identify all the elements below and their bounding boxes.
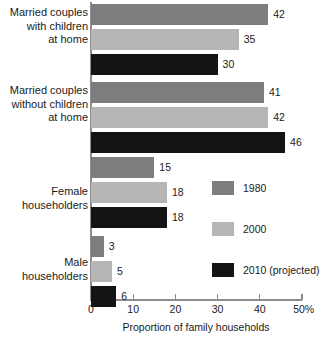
x-tick-label-50: 50% [293,303,314,315]
x-tick-label-20: 20 [170,303,182,315]
bar-male-householders-2010-projected[interactable] [91,286,116,307]
category-label-female-householders: Female householders [0,185,88,212]
bar-value-married-with-children-2010-projected: 30 [223,58,235,70]
category-label-male-householders: Male householders [0,256,88,283]
x-tick-label-10: 10 [127,303,139,315]
category-label-married-with-children: Married couples with children at home [0,6,88,47]
bar-value-female-householders-2000: 18 [172,186,184,198]
category-label-married-without-children: Married couples without children at home [0,84,88,125]
bar-male-householders-1980[interactable] [91,236,104,257]
legend-item-2000[interactable]: 2000 [212,221,266,236]
bar-value-married-without-children-1980: 41 [269,86,281,98]
bar-married-with-children-1980[interactable] [91,4,268,25]
legend-swatch-icon-1980 [212,181,234,195]
legend-label-2000: 2000 [243,223,266,235]
bar-value-male-householders-2010-projected: 6 [121,290,127,302]
bar-value-married-with-children-2000: 35 [244,33,256,45]
bar-chart: 01020304050% Married couples with childr… [0,0,322,342]
x-tick-30 [217,294,218,300]
bar-value-male-householders-2000: 5 [117,265,123,277]
x-tick-10 [133,294,134,300]
x-axis-title: Proportion of family households [90,321,302,333]
x-tick-40 [259,294,260,300]
bar-female-householders-2010-projected[interactable] [91,207,167,228]
plot-area: 01020304050% Married couples with childr… [0,0,322,342]
legend-swatch-icon-2010 [212,263,234,277]
bar-value-female-householders-1980: 15 [159,161,171,173]
legend-item-1980[interactable]: 1980 [212,180,266,195]
legend-label-2010: 2010 (projected) [243,264,319,276]
bar-female-householders-2000[interactable] [91,182,167,203]
bar-value-married-without-children-2000: 42 [273,111,285,123]
bar-married-with-children-2000[interactable] [91,29,239,50]
x-tick-label-30: 30 [212,303,224,315]
bar-male-householders-2000[interactable] [91,261,112,282]
bar-married-without-children-2000[interactable] [91,107,268,128]
legend-swatch-icon-2000 [212,222,234,236]
bar-value-male-householders-1980: 3 [109,240,115,252]
bar-female-householders-1980[interactable] [91,157,154,178]
legend-item-2010-projected[interactable]: 2010 (projected) [212,262,319,277]
bar-value-married-with-children-1980: 42 [273,8,285,20]
x-tick-label-40: 40 [254,303,266,315]
legend-label-1980: 1980 [243,182,266,194]
x-tick-20 [175,294,176,300]
bar-married-without-children-1980[interactable] [91,82,264,103]
bar-value-married-without-children-2010-projected: 46 [290,136,302,148]
bar-value-female-householders-2010-projected: 18 [172,211,184,223]
bar-married-without-children-2010-projected[interactable] [91,132,285,153]
x-tick-50 [301,294,302,300]
bar-married-with-children-2010-projected[interactable] [91,54,218,75]
